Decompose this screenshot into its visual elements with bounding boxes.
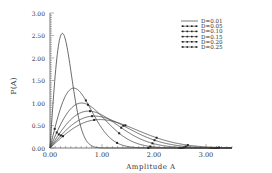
data-point-marker	[58, 133, 60, 135]
data-point-marker	[151, 142, 153, 144]
data-point-marker	[156, 137, 158, 139]
y-tick-label: 1.00	[32, 100, 46, 107]
data-point-marker	[62, 135, 64, 137]
legend-label: D=0.25	[201, 44, 223, 50]
data-point-marker	[85, 99, 87, 101]
y-tick-label: 0.50	[32, 122, 46, 129]
x-tick-label: 2.00	[147, 151, 161, 159]
data-point-marker	[185, 145, 187, 147]
x-tick-label: 0.00	[43, 151, 57, 159]
data-point-marker	[89, 110, 91, 112]
y-tick-label: 2.00	[32, 55, 46, 62]
data-point-marker	[91, 115, 93, 117]
curve-D-0-25	[50, 120, 232, 148]
data-point-marker	[56, 131, 58, 133]
data-point-marker	[93, 119, 95, 121]
y-tick-label: 2.50	[32, 32, 46, 39]
data-point-marker	[124, 124, 126, 126]
data-point-marker	[118, 132, 120, 134]
data-point-marker	[187, 144, 189, 146]
y-axis-label: P(A)	[9, 77, 18, 94]
data-point-marker	[154, 139, 156, 141]
data-point-marker	[147, 147, 149, 149]
curve-D-0-15	[50, 111, 232, 148]
x-axis-label: Amplitude A	[125, 163, 176, 171]
curves	[50, 33, 232, 149]
x-tick-label: 3.00	[199, 151, 213, 159]
chart: 0.000.501.001.502.002.503.000.001.002.00…	[0, 0, 272, 173]
y-tick-label: 1.50	[32, 77, 46, 84]
data-point-marker	[120, 127, 122, 129]
data-point-marker	[54, 128, 56, 130]
legend: D=0.01D=0.05D=0.10D=0.15D=0.20D=0.25	[181, 18, 223, 50]
data-point-marker	[87, 104, 89, 106]
y-tick-label: 3.00	[32, 10, 46, 17]
data-point-marker	[183, 146, 185, 148]
data-point-marker	[218, 146, 220, 148]
x-tick-label: 1.00	[95, 151, 109, 159]
data-point-marker	[116, 142, 118, 144]
data-point-marker	[149, 145, 151, 147]
curve-D-0-01	[50, 33, 232, 148]
data-point-marker	[60, 134, 62, 136]
